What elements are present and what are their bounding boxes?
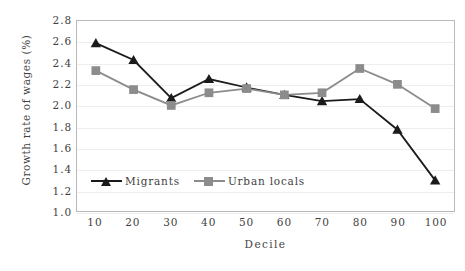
y-axis-tick-label: 2.8 <box>53 14 72 26</box>
x-axis-tick-label: 60 <box>277 216 292 228</box>
data-point-square <box>431 104 440 113</box>
y-axis-tick-label: 1.4 <box>53 163 72 175</box>
legend: MigrantsUrban locals <box>91 175 305 187</box>
x-axis-tick-label: 30 <box>163 216 178 228</box>
series-line <box>96 43 435 180</box>
x-axis-tick-label: 70 <box>315 216 330 228</box>
data-point-triangle <box>91 38 101 47</box>
y-axis-tick-label: 1.2 <box>53 185 72 197</box>
legend-item-urban-locals[interactable]: Urban locals <box>194 175 305 187</box>
series-migrants <box>91 38 441 184</box>
x-axis-tick-label: 100 <box>425 216 448 228</box>
data-point-triangle <box>128 55 138 64</box>
data-point-square <box>318 88 327 97</box>
data-point-square <box>205 88 214 97</box>
legend-square-icon <box>194 175 225 187</box>
x-axis-tick-label: 90 <box>391 216 406 228</box>
y-axis-tick-label: 2.2 <box>53 78 72 90</box>
data-point-square <box>393 80 402 89</box>
x-axis-tick-label: 50 <box>239 216 254 228</box>
y-axis-tick-label: 1.6 <box>53 142 72 154</box>
legend-label: Urban locals <box>228 175 305 187</box>
y-axis-tick-labels: 2.82.62.42.22.01.81.61.41.21.0 <box>28 14 72 212</box>
gridline <box>77 213 454 214</box>
plot-area: MigrantsUrban locals <box>76 20 455 212</box>
y-axis-tick-label: 2.6 <box>53 35 72 47</box>
x-axis-tick-label: 10 <box>87 216 102 228</box>
data-point-triangle <box>204 74 214 83</box>
data-point-square <box>355 64 364 73</box>
legend-item-migrants[interactable]: Migrants <box>91 175 180 187</box>
line-chart: Growth rate of wages (%) 2.82.62.42.22.0… <box>0 0 465 271</box>
x-axis-title: Decile <box>76 238 455 250</box>
x-axis-tick-labels: 102030405060708090100 <box>76 216 455 232</box>
data-point-square <box>242 84 251 93</box>
x-axis-tick-label: 40 <box>201 216 216 228</box>
legend-triangle-icon <box>91 175 122 187</box>
y-axis-tick-label: 1.8 <box>53 121 72 133</box>
data-point-square <box>129 85 138 94</box>
legend-label: Migrants <box>125 175 180 187</box>
data-point-square <box>167 101 176 110</box>
x-axis-tick-label: 20 <box>125 216 140 228</box>
data-point-square <box>280 91 289 100</box>
x-axis-tick-label: 80 <box>353 216 368 228</box>
y-axis-tick-label: 2.0 <box>53 99 72 111</box>
y-axis-tick-label: 2.4 <box>53 57 72 69</box>
data-point-square <box>91 66 100 75</box>
y-axis-tick-label: 1.0 <box>53 206 72 218</box>
